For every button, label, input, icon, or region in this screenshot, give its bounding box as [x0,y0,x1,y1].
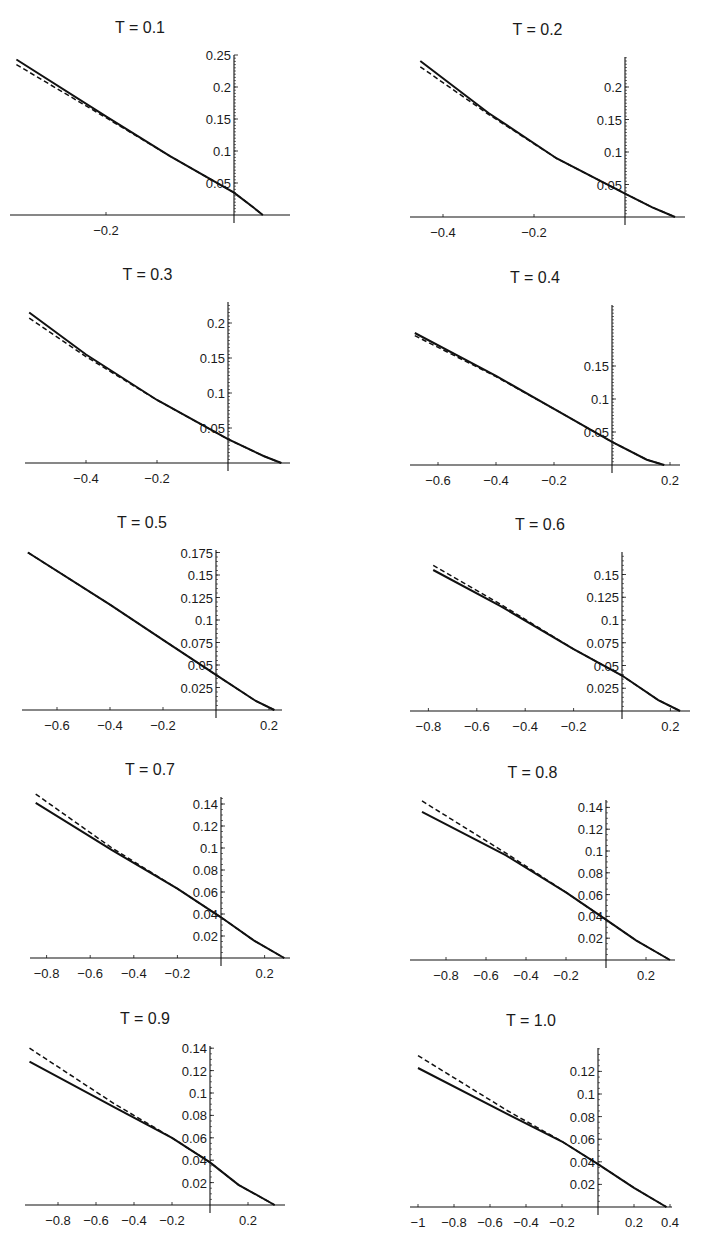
solid-curve [36,803,285,958]
x-tick-label: −0.4 [73,471,99,486]
x-tick-label: −0.8 [416,719,442,734]
y-tick-label: 0.02 [182,1176,207,1191]
x-tick-label: −0.2 [553,968,579,983]
solid-curve [415,333,664,465]
y-tick-label: 0.1 [213,144,231,159]
y-tick-label: 0.175 [180,546,213,561]
y-tick-label: 0.06 [182,1131,207,1146]
x-tick-label: −0.8 [433,968,459,983]
x-tick-label: −0.6 [477,1215,503,1230]
y-tick-label: 0.06 [193,885,218,900]
panel-title: T = 0.8 [508,764,558,781]
y-tick-label: 0.1 [604,145,622,160]
chart-panel: T = 0.7−0.8−0.6−0.4−0.20.20.020.040.060.… [30,761,290,981]
x-tick-label: 0.2 [637,968,655,983]
x-tick-label: −0.2 [159,1213,185,1228]
x-tick-label: −0.4 [513,1215,539,1230]
x-tick-label: −0.2 [144,471,170,486]
chart-panel: T = 1.0−1−0.8−0.6−0.4−0.20.20.40.020.040… [410,1012,679,1230]
y-tick-label: 0.1 [189,1086,207,1101]
multi-panel-line-chart: T = 0.1−0.20.050.10.150.20.25T = 0.2−0.4… [0,0,706,1252]
x-tick-label: −1 [411,1215,426,1230]
x-tick-label: −0.8 [34,966,60,981]
x-tick-label: −0.4 [121,1213,147,1228]
y-tick-label: 0.12 [570,1064,595,1079]
x-tick-label: −0.2 [561,719,587,734]
y-tick-label: 0.1 [200,841,218,856]
x-tick-label: 0.2 [661,473,679,488]
x-tick-label: −0.4 [97,718,123,733]
x-tick-label: 0.2 [239,1213,257,1228]
y-tick-label: 0.05 [200,421,225,436]
chart-panel: T = 0.5−0.6−0.4−0.20.20.0250.050.0750.10… [22,514,282,733]
y-tick-label: 0.08 [182,1108,207,1123]
x-tick-label: 0.4 [661,1215,679,1230]
x-tick-label: −0.4 [513,968,539,983]
x-tick-label: −0.2 [521,225,547,240]
y-tick-label: 0.08 [193,863,218,878]
y-tick-label: 0.12 [578,822,603,837]
x-tick-label: −0.6 [44,718,70,733]
panel-title: T = 0.7 [125,761,175,778]
y-tick-label: 0.12 [182,1064,207,1079]
y-tick-label: 0.02 [578,931,603,946]
y-tick-label: 0.15 [584,359,609,374]
y-tick-label: 0.14 [182,1041,207,1056]
y-tick-label: 0.15 [188,568,213,583]
y-tick-label: 0.075 [180,636,213,651]
x-tick-label: −0.6 [425,473,451,488]
chart-panel: T = 0.9−0.8−0.6−0.4−0.20.20.020.040.060.… [25,1010,285,1228]
x-tick-label: 0.2 [260,718,278,733]
dashed-curve [30,1048,275,1205]
y-tick-label: 0.04 [182,1153,207,1168]
y-tick-label: 0.08 [578,866,603,881]
panel-title: T = 0.3 [123,266,173,283]
y-tick-label: 0.025 [180,681,213,696]
y-tick-label: 0.1 [577,1087,595,1102]
y-tick-label: 0.2 [213,80,231,95]
panel-title: T = 0.2 [513,21,563,38]
y-tick-label: 0.1 [207,386,225,401]
y-tick-label: 0.1 [195,613,213,628]
y-tick-label: 0.15 [597,113,622,128]
x-tick-label: −0.4 [483,473,509,488]
figure-grid: T = 0.1−0.20.050.10.150.20.25T = 0.2−0.4… [0,0,706,1252]
x-tick-label: −0.2 [165,966,191,981]
y-tick-label: 0.15 [594,568,619,583]
y-tick-label: 0.1 [601,613,619,628]
y-tick-label: 0.075 [586,636,619,651]
chart-panel: T = 0.2−0.4−0.20.050.10.150.2 [410,21,685,240]
y-tick-label: 0.02 [570,1177,595,1192]
dashed-curve [36,794,285,958]
x-tick-label: −0.4 [121,966,147,981]
y-tick-label: 0.1 [591,392,609,407]
x-tick-label: −0.6 [464,719,490,734]
y-tick-label: 0.06 [570,1132,595,1147]
y-tick-label: 0.14 [578,800,603,815]
y-tick-label: 0.125 [180,591,213,606]
y-tick-label: 0.1 [585,844,603,859]
solid-curve [420,61,675,217]
panel-title: T = 0.5 [117,514,167,531]
y-tick-label: 0.04 [193,907,218,922]
y-tick-label: 0.2 [207,316,225,331]
x-tick-label: −0.2 [549,1215,575,1230]
dashed-curve [415,336,664,465]
panel-title: T = 0.6 [515,516,565,533]
x-tick-label: −0.2 [93,223,119,238]
chart-panel: T = 0.6−0.8−0.6−0.4−0.20.20.0250.050.075… [410,516,690,734]
y-tick-label: 0.14 [193,797,218,812]
chart-panel: T = 0.8−0.8−0.6−0.4−0.20.20.020.040.060.… [410,764,675,983]
x-tick-label: −0.8 [441,1215,467,1230]
panel-title: T = 0.9 [120,1010,170,1027]
solid-curve [418,1068,666,1207]
y-tick-label: 0.25 [206,48,231,63]
panel-title: T = 0.1 [115,19,165,36]
y-tick-label: 0.025 [586,681,619,696]
y-tick-label: 0.02 [193,929,218,944]
chart-panel: T = 0.4−0.6−0.4−0.20.20.050.10.15 [410,269,680,488]
x-tick-label: −0.2 [150,718,176,733]
x-tick-label: −0.4 [430,225,456,240]
x-tick-label: 0.2 [661,719,679,734]
y-tick-label: 0.125 [586,590,619,605]
